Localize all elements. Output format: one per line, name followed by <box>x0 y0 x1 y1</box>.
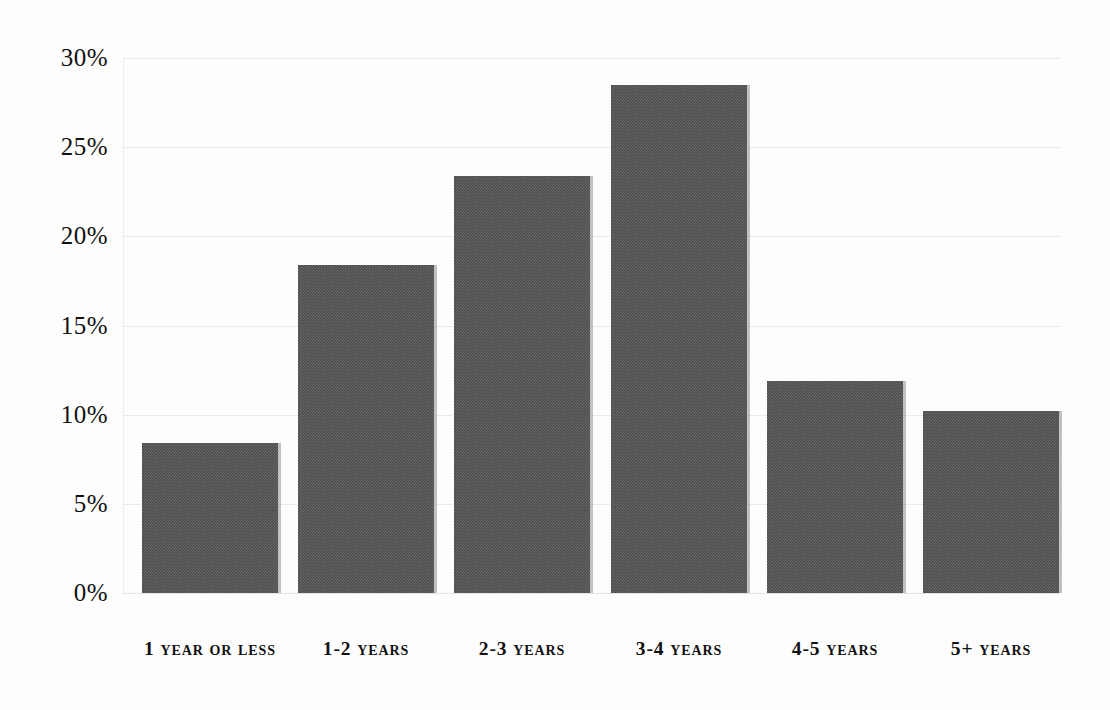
y-axis-tick-label: 25% <box>18 133 108 161</box>
plot-area <box>123 58 1060 593</box>
bar[interactable] <box>142 443 278 593</box>
x-axis: 1 year or less1-2 years2-3 years3-4 year… <box>123 632 1060 710</box>
y-axis-tick-label: 30% <box>18 44 108 72</box>
bar[interactable] <box>923 411 1059 593</box>
bar[interactable] <box>611 85 747 593</box>
y-axis-tick-label: 10% <box>18 401 108 429</box>
y-axis: 0%5%10%15%20%25%30% <box>0 0 108 710</box>
bar[interactable] <box>767 381 903 593</box>
bar[interactable] <box>298 265 434 593</box>
gridline <box>123 593 1060 594</box>
y-axis-tick-label: 15% <box>18 312 108 340</box>
y-axis-tick-label: 20% <box>18 222 108 250</box>
x-axis-tick-label: 3-4 years <box>601 632 757 665</box>
bars-group <box>123 58 1060 593</box>
x-axis-tick-label: 1-2 years <box>288 632 444 665</box>
y-axis-tick-label: 0% <box>18 579 108 607</box>
y-axis-tick-label: 5% <box>18 490 108 518</box>
x-axis-tick-label: 5+ years <box>913 632 1069 665</box>
bar[interactable] <box>454 176 590 593</box>
x-axis-tick-label: 1 year or less <box>132 632 288 665</box>
x-axis-tick-label: 4-5 years <box>757 632 913 665</box>
chart-page: 0%5%10%15%20%25%30% 1 year or less1-2 ye… <box>0 0 1110 710</box>
x-axis-tick-label: 2-3 years <box>444 632 600 665</box>
